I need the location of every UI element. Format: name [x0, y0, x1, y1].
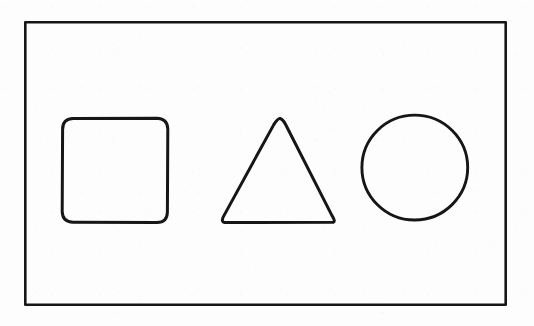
triangle-shape: [222, 118, 334, 222]
circle-shape: [362, 115, 468, 220]
outer-frame-rectangle: [25, 22, 505, 304]
shapes-drawing: [0, 0, 534, 326]
square-shape: [62, 118, 168, 222]
drawing-canvas: [0, 0, 534, 326]
